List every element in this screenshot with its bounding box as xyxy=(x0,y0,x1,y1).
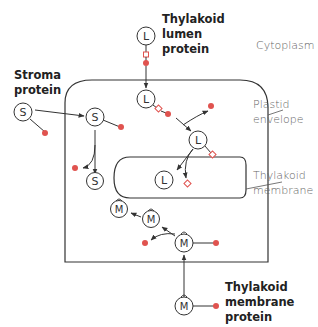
stroma-node-stroma: S xyxy=(92,111,99,124)
svg-text:M: M xyxy=(115,204,124,215)
membrane-protein-pathway: M M M M xyxy=(111,199,220,315)
thylakoid-membrane-label: Thylakoid membrane xyxy=(253,168,313,198)
svg-text:M: M xyxy=(180,238,189,249)
stroma-protein-pathway: S S S xyxy=(14,103,124,190)
cytoplasm-label: Cytoplasm xyxy=(256,38,314,53)
plastid-envelope-label: Plastid envelope xyxy=(253,97,304,127)
svg-text:L: L xyxy=(161,174,168,187)
svg-text:L: L xyxy=(143,30,150,43)
stroma-node-cytoplasm: S xyxy=(20,106,27,119)
lumen-protein-label: Thylakoid lumen protein xyxy=(162,12,225,57)
svg-text:L: L xyxy=(143,93,150,106)
membrane-protein-label: Thylakoid membrane protein xyxy=(225,280,294,325)
thylakoid-membrane xyxy=(114,157,246,198)
svg-text:M: M xyxy=(180,301,189,312)
stroma-node-mature: S xyxy=(92,175,99,188)
svg-text:L: L xyxy=(195,134,202,147)
stroma-protein-label: Stroma protein xyxy=(14,68,61,98)
svg-text:M: M xyxy=(147,214,156,225)
